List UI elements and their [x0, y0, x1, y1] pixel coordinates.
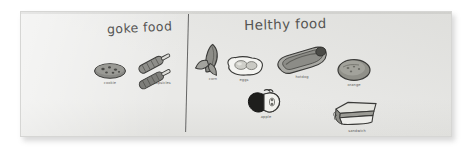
- worksheet-canvas: goke food Helthy food cookie: [0, 0, 468, 152]
- item-apple[interactable]: apple: [243, 88, 289, 119]
- sandwich-icon: [330, 100, 384, 128]
- item-label: hotdog: [272, 75, 332, 79]
- popsicle-icon: [134, 44, 190, 80]
- paper-top-edge: [21, 12, 451, 14]
- item-hotdog[interactable]: hotdog: [272, 48, 332, 79]
- item-label: sandwich: [330, 129, 384, 133]
- item-popsicles[interactable]: popsicles: [134, 44, 190, 85]
- cookie-icon: [93, 62, 127, 80]
- item-label: apple: [243, 115, 289, 119]
- apple-icon: [243, 88, 289, 114]
- orange-icon: [334, 58, 374, 82]
- item-cookie[interactable]: cookie: [93, 62, 127, 85]
- item-label: eggs: [222, 78, 266, 82]
- heading-healthy-food: Helthy food: [244, 15, 327, 33]
- item-sandwich[interactable]: sandwich: [330, 100, 384, 133]
- fried-egg-icon: [222, 55, 266, 77]
- item-label: orange: [334, 83, 374, 87]
- hotdog-icon: [272, 48, 332, 74]
- item-eggs[interactable]: eggs: [222, 55, 266, 82]
- item-label: cookie: [93, 81, 127, 85]
- item-orange[interactable]: orange: [334, 58, 374, 87]
